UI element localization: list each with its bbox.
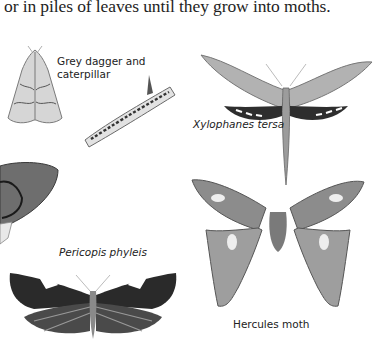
hercules-moth-label: Hercules moth xyxy=(233,318,309,331)
body-text-line: or in piles of leaves until they grow in… xyxy=(4,0,331,16)
grey-dagger-label-line2: caterpillar xyxy=(57,68,146,81)
hercules-moth-illustration xyxy=(188,168,368,318)
xylophanes-tersa-label: Xylophanes tersa xyxy=(193,118,284,131)
pericopis-phyleis-illustration xyxy=(4,245,182,339)
partial-moth-left-illustration xyxy=(0,158,62,248)
pericopis-phyleis-label: Pericopis phyleis xyxy=(59,246,147,259)
grey-dagger-label-line1: Grey dagger and xyxy=(57,55,146,68)
grey-dagger-label: Grey dagger and caterpillar xyxy=(57,55,146,81)
